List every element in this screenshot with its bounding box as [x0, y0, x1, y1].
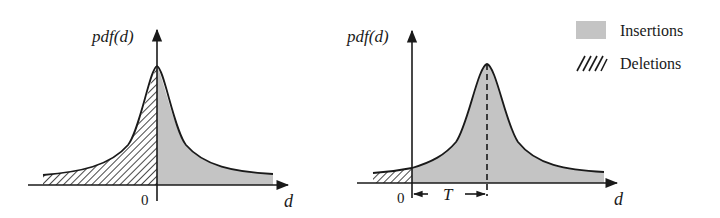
legend-swatch-insertions — [576, 21, 606, 39]
left-y-label: pdf(d) — [91, 27, 134, 46]
left-deletions-area — [43, 66, 157, 185]
shift-label: T — [443, 185, 454, 204]
legend-label-insertions: Insertions — [620, 22, 683, 39]
legend: Insertions Deletions — [576, 21, 683, 72]
right-deletions-area — [373, 168, 412, 183]
left-chart: pdf(d) d 0 — [28, 27, 294, 211]
right-zero-label: 0 — [397, 190, 405, 206]
legend-label-deletions: Deletions — [620, 55, 681, 72]
right-insertions-area — [412, 64, 604, 183]
left-zero-label: 0 — [141, 192, 149, 208]
figure: pdf(d) d 0 T pdf(d) d 0 Insertions — [0, 0, 720, 218]
legend-swatch-deletions — [577, 56, 607, 71]
left-x-label: d — [284, 191, 294, 211]
right-chart: T pdf(d) d 0 — [346, 27, 624, 209]
right-x-label: d — [614, 189, 624, 209]
right-y-label: pdf(d) — [346, 27, 389, 46]
left-insertions-area — [157, 66, 273, 185]
